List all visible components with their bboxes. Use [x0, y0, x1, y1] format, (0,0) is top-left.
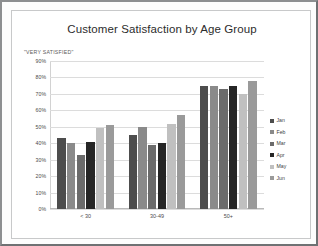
- legend-label: Jun: [277, 176, 285, 181]
- y-axis-tick-label: 30%: [36, 157, 46, 163]
- bar[interactable]: [129, 135, 138, 209]
- y-axis-tick-label: 0%: [39, 206, 47, 212]
- bar[interactable]: [229, 86, 238, 209]
- bar[interactable]: [96, 128, 105, 209]
- legend-label: Jan: [277, 118, 285, 123]
- legend-swatch-icon: [270, 130, 274, 134]
- y-axis-tick-label: 20%: [36, 173, 46, 179]
- legend-label: Mar: [277, 141, 286, 146]
- bar[interactable]: [67, 143, 76, 209]
- y-axis-tick-label: 10%: [36, 190, 46, 196]
- x-axis-category-label: 30-49: [121, 213, 192, 219]
- x-axis-category-label: 50+: [193, 213, 264, 219]
- y-axis-tick-label: 80%: [36, 74, 46, 80]
- bar[interactable]: [77, 155, 86, 209]
- bar[interactable]: [158, 143, 167, 209]
- bar-group: 30-49: [121, 61, 192, 209]
- plot-area: 90%80%70%60%50%40%30%20%10%0%< 3030-4950…: [50, 61, 264, 209]
- legend-swatch-icon: [270, 142, 274, 146]
- y-axis-tick-label: 60%: [36, 107, 46, 113]
- legend-item-mar[interactable]: Mar: [270, 138, 308, 150]
- legend-swatch-icon: [270, 153, 274, 157]
- bar[interactable]: [219, 89, 228, 209]
- bar[interactable]: [177, 115, 186, 209]
- y-axis-label: "VERY SATISFIED": [24, 49, 73, 55]
- legend-label: Apr: [277, 153, 285, 158]
- bar[interactable]: [248, 81, 257, 209]
- bar[interactable]: [210, 86, 219, 209]
- legend-item-jan[interactable]: Jan: [270, 115, 308, 127]
- legend-swatch-icon: [270, 176, 274, 180]
- legend-item-feb[interactable]: Feb: [270, 127, 308, 139]
- legend-item-apr[interactable]: Apr: [270, 150, 308, 162]
- chart-legend: JanFebMarAprMayJun: [270, 115, 308, 184]
- bar[interactable]: [167, 124, 176, 210]
- bar[interactable]: [148, 145, 157, 209]
- bar[interactable]: [138, 127, 147, 209]
- legend-item-may[interactable]: May: [270, 161, 308, 173]
- chart-container: Customer Satisfaction by Age Group "VERY…: [11, 10, 311, 239]
- bar[interactable]: [200, 86, 209, 209]
- bar[interactable]: [57, 138, 66, 209]
- legend-label: Feb: [277, 130, 286, 135]
- legend-swatch-icon: [270, 119, 274, 123]
- bar[interactable]: [239, 94, 248, 209]
- legend-swatch-icon: [270, 165, 274, 169]
- y-axis-tick-label: 70%: [36, 91, 46, 97]
- legend-item-jun[interactable]: Jun: [270, 173, 308, 185]
- bar-group: < 30: [50, 61, 121, 209]
- scanned-page-frame: Customer Satisfaction by Age Group "VERY…: [0, 0, 318, 246]
- bar-group: 50+: [193, 61, 264, 209]
- bar[interactable]: [86, 142, 95, 209]
- gridline: [50, 209, 264, 210]
- y-axis-tick-label: 90%: [36, 58, 46, 64]
- bar[interactable]: [106, 125, 115, 209]
- chart-title: Customer Satisfaction by Age Group: [12, 23, 312, 35]
- y-axis-tick-label: 50%: [36, 124, 46, 130]
- x-axis-category-label: < 30: [50, 213, 121, 219]
- y-axis-tick-label: 40%: [36, 140, 46, 146]
- legend-label: May: [277, 164, 287, 169]
